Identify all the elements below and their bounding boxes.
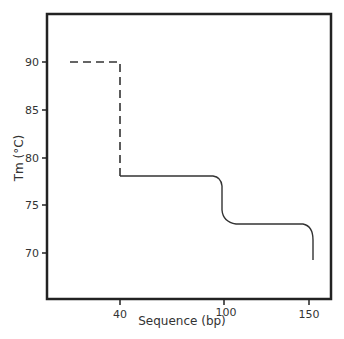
y-axis-label: Tm (°C) [12, 135, 26, 183]
x-axis-label: Sequence (bp) [138, 314, 226, 328]
y-tick-80: 80 [25, 152, 39, 165]
y-tick-70: 70 [25, 247, 39, 260]
x-tick-150: 150 [299, 308, 320, 321]
melting-temperature-chart: 90 85 80 75 70 40 100 150 Sequence (bp) … [0, 0, 344, 339]
x-tick-40: 40 [113, 308, 127, 321]
y-tick-85: 85 [25, 104, 39, 117]
dashed-curve [70, 62, 120, 176]
solid-curve [120, 176, 313, 260]
plot-frame [47, 14, 331, 299]
y-tick-90: 90 [25, 56, 39, 69]
y-axis-tick-labels: 90 85 80 75 70 [25, 56, 39, 260]
y-tick-75: 75 [25, 199, 39, 212]
